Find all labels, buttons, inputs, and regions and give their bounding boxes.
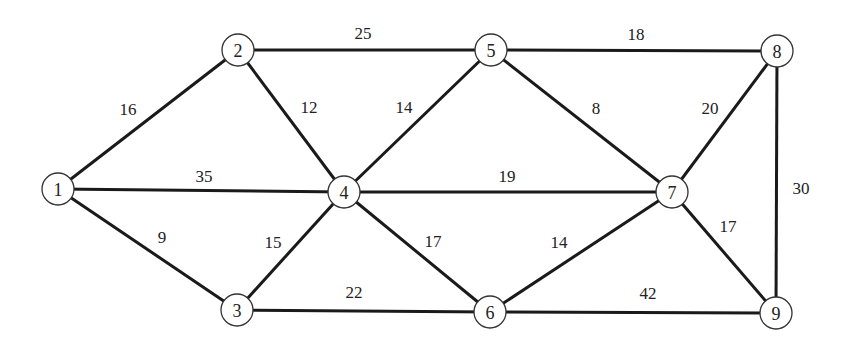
- edge-weight-label: 20: [702, 99, 719, 118]
- edge-weight-label: 9: [158, 228, 167, 247]
- edge-2-4: [238, 50, 344, 192]
- node-label: 7: [668, 183, 677, 203]
- edge-weight-label: 25: [355, 24, 372, 43]
- edge-3-6: [237, 310, 490, 312]
- edge-7-9: [672, 192, 776, 313]
- node-1: 1: [42, 173, 74, 205]
- edge-1-3: [58, 189, 237, 310]
- edge-weights-layer: 16359251214188203019151714172242: [120, 24, 810, 303]
- node-6: 6: [474, 296, 506, 328]
- node-label: 6: [486, 303, 495, 323]
- node-8: 8: [761, 35, 793, 67]
- edge-weight-label: 18: [628, 25, 645, 44]
- edge-weight-label: 15: [265, 233, 282, 252]
- edge-weight-label: 35: [196, 167, 213, 186]
- node-label: 1: [54, 180, 63, 200]
- edge-weight-label: 8: [592, 99, 601, 118]
- node-3: 3: [221, 294, 253, 326]
- node-label: 9: [772, 304, 781, 324]
- node-7: 7: [656, 176, 688, 208]
- edge-4-6: [344, 192, 490, 312]
- edge-1-4: [58, 189, 344, 192]
- weighted-graph-diagram: 16359251214188203019151714172242 1234567…: [0, 0, 842, 347]
- edge-weight-label: 22: [346, 283, 363, 302]
- edge-weight-label: 30: [793, 179, 810, 198]
- edge-weight-label: 42: [640, 284, 657, 303]
- edge-weight-label: 12: [301, 98, 318, 117]
- edge-5-4: [344, 50, 491, 192]
- edge-8-7: [672, 51, 777, 192]
- node-label: 8: [773, 42, 782, 62]
- edge-4-3: [237, 192, 344, 310]
- node-label: 3: [233, 301, 242, 321]
- edge-8-9: [776, 51, 777, 313]
- node-label: 5: [487, 41, 496, 61]
- edge-weight-label: 16: [120, 100, 137, 119]
- edge-5-8: [491, 50, 777, 51]
- node-2: 2: [222, 34, 254, 66]
- edge-6-9: [490, 312, 776, 313]
- edge-5-7: [491, 50, 672, 192]
- edge-weight-label: 14: [396, 98, 414, 117]
- nodes-layer: 123456789: [42, 34, 793, 329]
- edge-weight-label: 17: [425, 232, 443, 251]
- edge-weight-label: 14: [551, 233, 569, 252]
- node-9: 9: [760, 297, 792, 329]
- node-5: 5: [475, 34, 507, 66]
- node-4: 4: [328, 176, 360, 208]
- node-label: 2: [234, 41, 243, 61]
- edge-weight-label: 19: [499, 167, 516, 186]
- edge-weight-label: 17: [720, 217, 738, 236]
- node-label: 4: [340, 183, 349, 203]
